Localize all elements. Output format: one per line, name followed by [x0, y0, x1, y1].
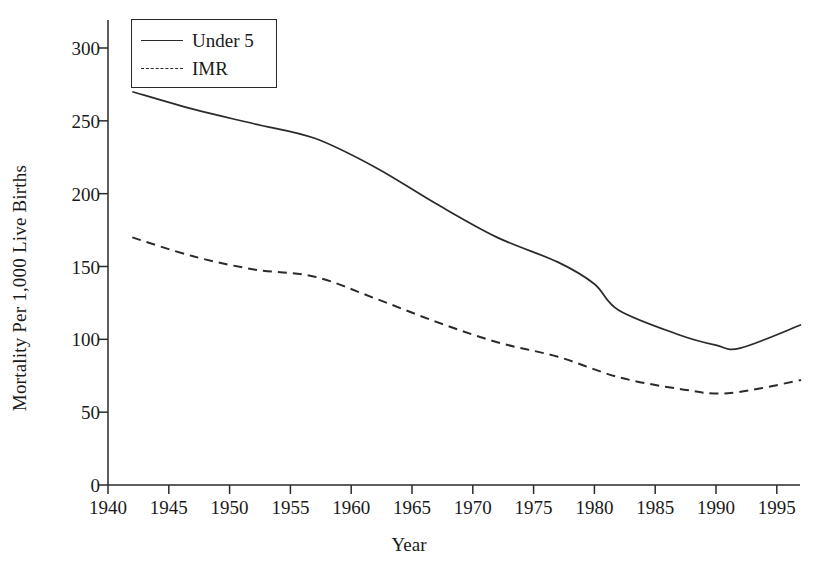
legend-line-solid-icon: [141, 34, 183, 46]
legend: Under 5 IMR: [131, 19, 277, 88]
legend-label-imr: IMR: [192, 59, 228, 78]
plot-area: [0, 0, 818, 576]
legend-line-dashed-icon: [141, 62, 183, 74]
mortality-line-chart: Mortality Per 1,000 Live Births 05010015…: [0, 0, 818, 576]
legend-item-under-5: Under 5: [132, 26, 276, 54]
tick-marks: [99, 48, 777, 494]
series-line-imr: [132, 237, 801, 393]
series-line-under-5: [132, 92, 801, 350]
x-axis-title: Year: [0, 534, 818, 556]
legend-label-under-5: Under 5: [192, 31, 254, 50]
legend-item-imr: IMR: [132, 54, 276, 82]
axis-lines: [108, 20, 800, 485]
series-lines: [132, 92, 801, 394]
